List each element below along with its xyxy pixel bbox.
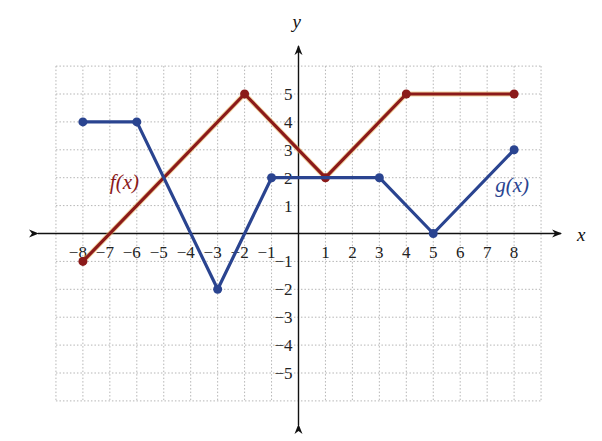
x-tick-label: 5	[429, 243, 438, 262]
data-point	[267, 173, 276, 182]
y-tick-label: 4	[284, 113, 293, 132]
data-point	[78, 117, 87, 126]
y-tick-label: −1	[274, 252, 292, 271]
y-tick-label: −2	[274, 280, 292, 299]
function-label: g(x)	[495, 173, 529, 197]
y-tick-label: −5	[274, 364, 292, 383]
data-point	[78, 257, 87, 266]
x-tick-label: −5	[150, 243, 168, 262]
x-tick-label: −3	[204, 243, 222, 262]
x-tick-label: 6	[456, 243, 465, 262]
x-tick-label: 7	[483, 243, 492, 262]
x-tick-label: 2	[348, 243, 357, 262]
y-tick-label: −4	[274, 336, 293, 355]
x-tick-label: 1	[321, 243, 330, 262]
data-point	[240, 90, 249, 99]
y-axis-label: y	[291, 11, 302, 32]
y-tick-label: −3	[274, 308, 292, 327]
plot-svg: −8−7−6−5−4−3−2−112345678−5−4−3−2−112345 …	[0, 0, 602, 441]
function-label: f(x)	[110, 170, 139, 194]
data-point	[510, 90, 519, 99]
y-tick-label: 1	[284, 197, 293, 216]
data-point	[510, 145, 519, 154]
x-tick-label: 8	[510, 243, 519, 262]
x-axis-label: x	[576, 224, 586, 245]
function-series: f(x)g(x)	[78, 90, 529, 294]
x-tick-label: 3	[375, 243, 384, 262]
x-tick-label: 4	[402, 243, 411, 262]
y-tick-label: 5	[284, 85, 293, 104]
data-point	[132, 117, 141, 126]
x-tick-label: −1	[258, 243, 276, 262]
data-point	[375, 173, 384, 182]
series-g: g(x)	[78, 117, 529, 293]
data-point	[429, 229, 438, 238]
coordinate-plane-chart: −8−7−6−5−4−3−2−112345678−5−4−3−2−112345 …	[0, 0, 602, 441]
data-point	[213, 285, 222, 294]
data-point	[402, 90, 411, 99]
x-tick-label: −6	[123, 243, 141, 262]
axes	[38, 46, 561, 425]
x-tick-label: −4	[177, 243, 196, 262]
